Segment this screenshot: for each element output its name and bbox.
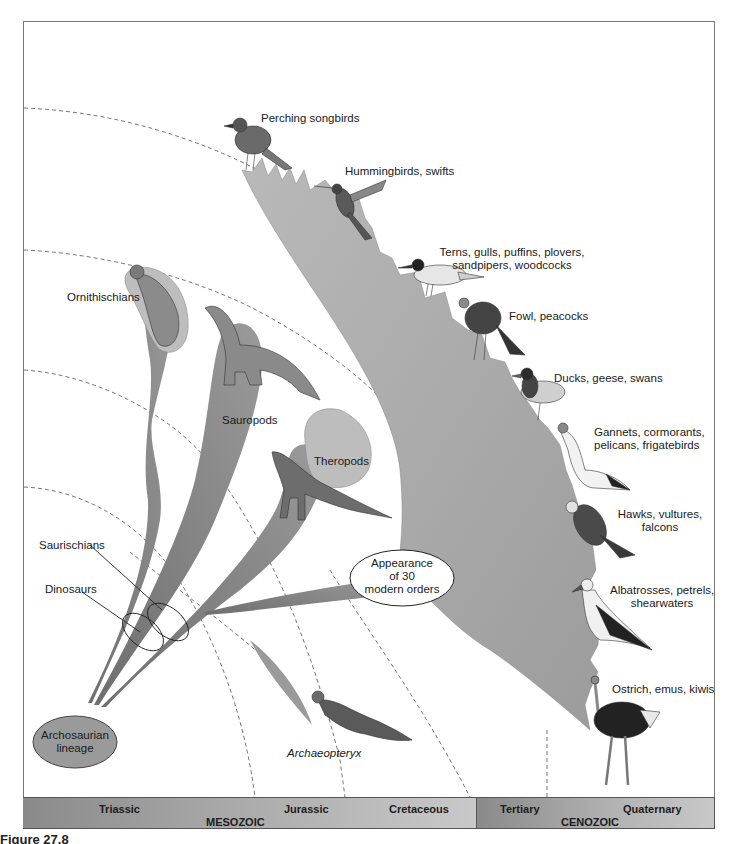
label-terns-line1: Terns, gulls, puffins, plovers, [432,246,592,259]
label-ornithischians: Ornithischians [67,291,140,304]
label-ducks-geese-swans: Ducks, geese, swans [554,372,663,385]
callout-line2: of 30 [352,570,452,583]
modern-bird-clade [242,158,600,730]
period-tertiary: Tertiary [500,803,540,815]
label-albatrosses-line1: Albatrosses, petrels, [610,584,714,597]
label-albatrosses: Albatrosses, petrels, shearwaters [610,584,714,610]
label-archaeopteryx: Archaeopteryx [287,747,361,760]
period-triassic: Triassic [99,803,140,815]
era-mesozoic: MESOZOIC [206,816,265,828]
label-gannets-line2: pelicans, frigatebirds [594,439,705,452]
label-perching-songbirds: Perching songbirds [261,112,359,125]
arc-1 [24,108,262,172]
songbird-icon [224,118,292,170]
label-fowl-peacocks: Fowl, peacocks [509,310,588,323]
label-hummingbirds-swifts: Hummingbirds, swifts [345,165,454,178]
label-theropods: Theropods [314,455,369,468]
label-hawks-line1: Hawks, vultures, [615,508,705,521]
root-line1: Archosaurian [33,729,117,742]
root-line2: lineage [33,742,117,755]
period-quaternary: Quaternary [623,803,682,815]
label-terns-line2: sandpipers, woodcocks [432,259,592,272]
label-gannets: Gannets, cormorants, pelicans, frigatebi… [594,426,705,452]
label-sauropods: Sauropods [222,414,278,427]
label-dinosaurs: Dinosaurs [45,583,97,596]
period-cretaceous: Cretaceous [389,803,449,815]
callout-modern-orders-text: Appearance of 30 modern orders [352,557,452,596]
label-albatrosses-line2: shearwaters [610,597,714,610]
callout-line3: modern orders [352,583,452,596]
period-jurassic: Jurassic [284,803,329,815]
era-band-cenozoic: Tertiary Quaternary CENOZOIC [476,797,715,829]
label-gannets-line1: Gannets, cormorants, [594,426,705,439]
callout-line1: Appearance [352,557,452,570]
theropods-blob [305,409,372,488]
label-ostrich-emus-kiwis: Ostrich, emus, kiwis [612,683,714,696]
root-label: Archosaurian lineage [33,729,117,755]
era-cenozoic: CENOZOIC [561,816,619,828]
era-band-mesozoic: Triassic Jurassic Cretaceous MESOZOIC [23,797,476,829]
label-hawks: Hawks, vultures, falcons [615,508,705,534]
label-terns-gulls: Terns, gulls, puffins, plovers, sandpipe… [432,246,592,272]
archaeopteryx-icon [312,691,412,741]
label-saurischians: Saurischians [39,539,105,552]
label-hawks-line2: falcons [615,521,705,534]
phylogeny-diagram [0,0,731,844]
figure-caption: Figure 27.8 [0,832,69,844]
